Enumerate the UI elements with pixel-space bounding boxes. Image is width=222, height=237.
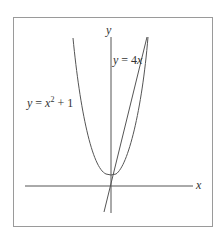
parabola-eq-rest: + 1 [54, 96, 73, 110]
line-eq-var: x [137, 53, 142, 67]
line-eq-mid: = 4 [118, 53, 137, 67]
parabola-equation-label: y = x2 + 1 [27, 97, 73, 109]
parabola-eq-mid: = [32, 96, 45, 110]
x-axis-label: x [196, 179, 201, 191]
y-axis-label: y [106, 24, 111, 36]
line-equation-label: y = 4x [113, 54, 142, 66]
